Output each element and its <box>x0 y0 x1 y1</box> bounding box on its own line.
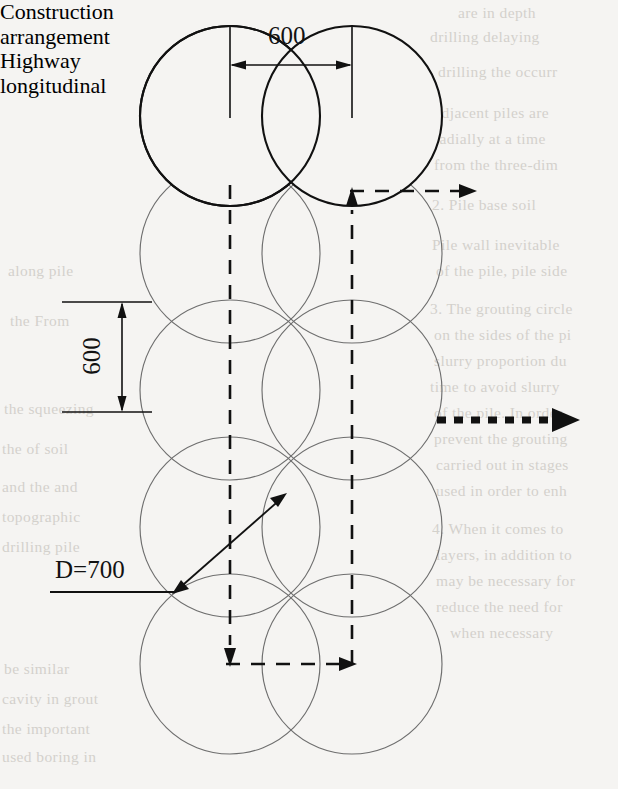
pile-circle-group-light <box>140 163 442 754</box>
dimension-left-vertical <box>62 302 152 412</box>
arrowhead-right-bottom <box>339 657 357 671</box>
highway-longitudinal-arrow <box>437 408 580 432</box>
diagram-canvas: are in depth drilling delaying drilling … <box>0 0 618 789</box>
arrowhead-highway <box>552 408 580 432</box>
arrowhead-upper-right <box>270 493 287 507</box>
arrowhead-up <box>118 302 127 318</box>
arrowhead-exit-right <box>459 184 477 198</box>
diameter-label: D=700 <box>55 556 125 584</box>
pile-layout-drawing <box>0 0 618 789</box>
dimension-label-vertical: 600 <box>78 326 106 386</box>
dimension-label-horizontal: 600 <box>268 22 306 50</box>
pile-circle-group-heavy <box>140 26 442 206</box>
arrowhead-down <box>118 396 127 412</box>
